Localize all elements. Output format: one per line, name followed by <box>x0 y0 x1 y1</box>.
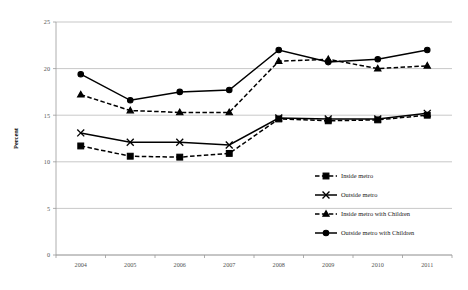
legend-label: Outside metro with Children <box>341 229 415 236</box>
data-point-marker-square <box>226 151 232 157</box>
data-point-marker-triangle <box>78 91 84 97</box>
series-outside-metro <box>77 110 430 149</box>
data-point-marker-circle <box>226 87 232 93</box>
data-point-marker-square <box>323 173 329 179</box>
data-point-marker-circle <box>424 47 430 53</box>
y-axis-title-text: Percent <box>12 127 19 149</box>
legend-item: Inside metro <box>315 172 373 179</box>
legend-label: Outside metro <box>341 191 377 198</box>
data-series <box>77 47 430 160</box>
y-tick-label: 15 <box>44 112 50 119</box>
y-tick-label: 25 <box>44 18 50 25</box>
legend-item: Outside metro <box>315 191 377 199</box>
legend-item: Inside metro with Children <box>315 210 411 217</box>
data-point-marker-square <box>375 117 381 123</box>
data-point-marker-circle <box>375 57 381 63</box>
x-axis-ticks: 20042005200620072008200920102011 <box>56 255 452 268</box>
series-inside-metro-with-children <box>78 56 431 115</box>
x-tick-label: 2008 <box>273 261 285 268</box>
x-tick-label: 2011 <box>421 261 433 268</box>
data-point-marker-circle <box>78 71 84 77</box>
y-tick-label: 5 <box>47 205 50 212</box>
x-tick-label: 2009 <box>322 261 334 268</box>
legend-label: Inside metro with Children <box>341 210 411 217</box>
y-axis-ticks: 0510152025 <box>44 18 56 258</box>
y-tick-label: 0 <box>47 251 50 258</box>
data-point-marker-circle <box>276 47 282 53</box>
data-point-marker-square <box>78 143 84 149</box>
data-point-marker-square <box>177 154 183 160</box>
x-tick-label: 2010 <box>372 261 384 268</box>
series-line <box>81 59 428 112</box>
y-axis-title: Percent <box>12 127 19 149</box>
data-point-marker-circle <box>323 230 329 236</box>
data-point-marker-circle <box>177 89 183 95</box>
legend-label: Inside metro <box>341 172 373 179</box>
x-tick-label: 2005 <box>124 261 136 268</box>
x-tick-label: 2006 <box>174 261 186 268</box>
series-outside-metro-with-children <box>78 47 430 103</box>
data-point-marker-square <box>127 153 133 159</box>
line-chart-container: 0510152025 20042005200620072008200920102… <box>0 0 468 290</box>
x-tick-label: 2007 <box>223 261 235 268</box>
chart-legend: Inside metroOutside metroInside metro wi… <box>315 172 415 236</box>
data-point-marker-circle <box>325 59 331 65</box>
x-tick-label: 2004 <box>75 261 87 268</box>
data-point-marker-circle <box>127 98 133 104</box>
y-tick-label: 20 <box>44 65 50 72</box>
chart-canvas: 0510152025 20042005200620072008200920102… <box>0 0 468 290</box>
legend-item: Outside metro with Children <box>315 229 415 236</box>
y-tick-label: 10 <box>44 158 50 165</box>
